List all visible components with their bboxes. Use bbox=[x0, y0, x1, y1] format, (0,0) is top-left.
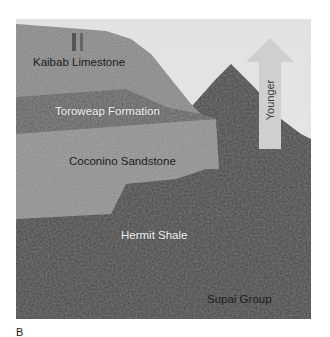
younger-label: Younger bbox=[264, 77, 276, 123]
label-coconino-sandstone: Coconino Sandstone bbox=[69, 155, 176, 167]
label-hermit-shale: Hermit Shale bbox=[121, 229, 187, 241]
younger-arrow: Younger bbox=[246, 38, 294, 149]
label-kaibab-limestone: Kaibab Limestone bbox=[33, 56, 125, 68]
panel-letter: B bbox=[16, 326, 23, 337]
label-toroweap-formation: Toroweap Formation bbox=[55, 105, 160, 117]
label-supai-group: Supai Group bbox=[207, 293, 272, 305]
